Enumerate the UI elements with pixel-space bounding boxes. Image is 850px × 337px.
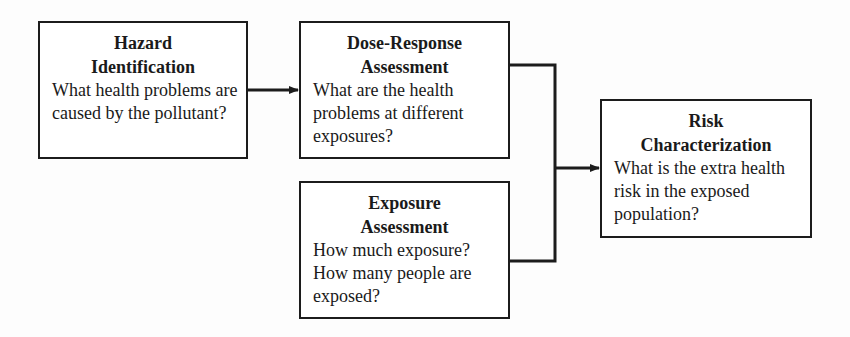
box-title-line: Exposure [313, 191, 502, 215]
box-title-line: Identification [52, 55, 240, 79]
risk-assessment-diagram: Hazard Identification What health proble… [0, 0, 850, 337]
box-title-line: Assessment [313, 55, 502, 79]
risk-characterization-box: Risk Characterization What is the extra … [600, 99, 812, 238]
box-body-text: What are the health problems at differen… [313, 79, 502, 148]
box-title-line: Risk [614, 109, 804, 133]
box-body-text: How much exposure? How many people are e… [313, 239, 502, 308]
exposure-assessment-box: Exposure Assessment How much exposure? H… [299, 181, 510, 319]
box-title-line: Characterization [614, 133, 804, 157]
connector-dose-response-to-merge [510, 65, 555, 168]
box-title-line: Assessment [313, 215, 502, 239]
dose-response-assessment-box: Dose-Response Assessment What are the he… [299, 21, 510, 159]
box-body-text: What is the extra health risk in the exp… [614, 157, 804, 226]
box-body-text: What health problems are caused by the p… [52, 79, 240, 125]
box-title-line: Dose-Response [313, 31, 502, 55]
hazard-identification-box: Hazard Identification What health proble… [38, 21, 248, 159]
box-title-line: Hazard [52, 31, 240, 55]
connector-exposure-to-merge [510, 168, 555, 261]
